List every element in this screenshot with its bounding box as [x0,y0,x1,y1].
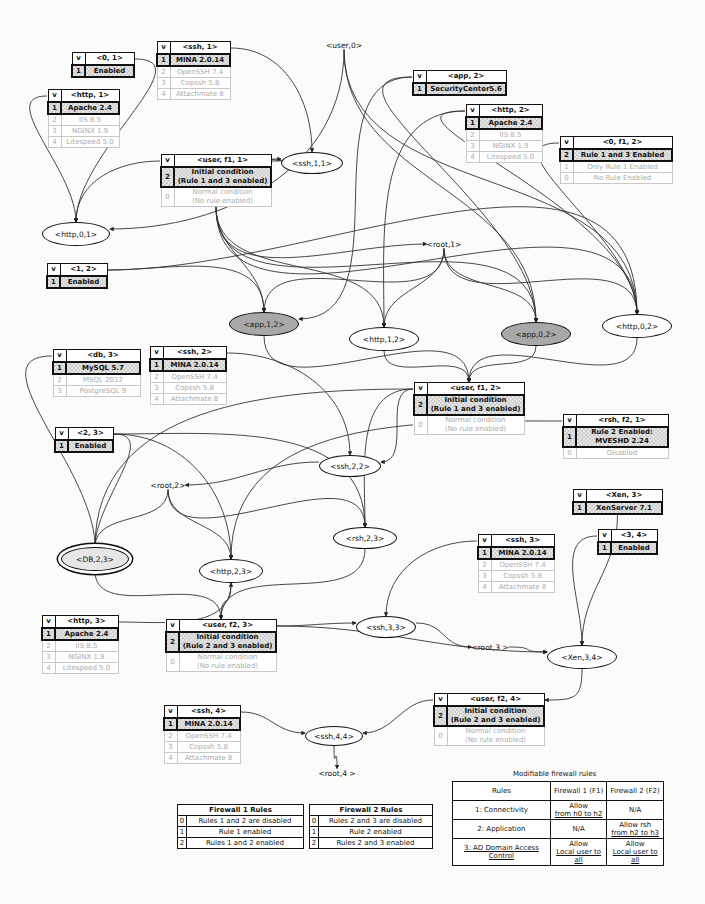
node-xen34[interactable]: <Xen,3,4> [547,645,617,669]
edge-tssh1-to-ssh11 [231,48,312,152]
selected-option-row[interactable]: 2Initial condition (Rule 2 and 3 enabled… [166,632,276,652]
edge-db23-to-tuserf23 [95,571,221,619]
option-row[interactable]: 3Copssh 5.8 [478,571,554,582]
option-row[interactable]: 2OpenSSH 7.4 [164,730,240,742]
selected-option-row[interactable]: 2Initial condition (Rule 1 and 3 enabled… [414,395,524,415]
option-text: NGINX 1.9 [479,141,542,152]
firewall1-rule-row: 2Rules 1 and 2 enabled [178,838,304,849]
node-ssh44[interactable]: <ssh,4,4> [305,726,363,746]
node-http23[interactable]: <http,2,3> [199,559,263,583]
selected-option-row[interactable]: 1Apache 2.4 [42,628,118,640]
selected-option-row[interactable]: 1Apache 2.4 [466,117,542,129]
option-row[interactable]: 4Litespeed 5.0 [48,137,119,148]
edge-ssh44-to-root4 [334,746,337,769]
selected-option-row[interactable]: 1Enabled [72,65,134,77]
node-http02[interactable]: <http,0,2> [602,314,672,338]
option-row[interactable]: 3Copssh 5.8 [150,383,226,394]
selected-option-row[interactable]: 1SecurityCenter5.6 [413,83,506,95]
option-row[interactable]: 3PostgreSQL 9 [53,386,140,397]
option-index: 4 [150,394,163,405]
node-rsh23[interactable]: <rsh,2,3> [333,527,397,549]
table-v-cell: v [150,347,163,360]
selected-option-row[interactable]: 2Rule 1 and 3 Enabled [560,149,672,161]
table-header: <3, 4> [611,530,657,543]
node-http12[interactable]: <http,1,2> [349,327,419,351]
node-ssh22[interactable]: <ssh,2,2> [319,455,381,477]
option-row[interactable]: 2OpenSSH 7.4 [478,559,554,571]
selected-option-row[interactable]: 1MINA 2.0.14 [157,54,230,66]
option-index: 2 [42,640,55,652]
selected-option-row[interactable]: 1MySQL 5.7 [53,362,140,374]
condition-table-t34: v<3, 4>1Enabled [597,529,658,555]
option-row[interactable]: 2MSQL 2012 [53,374,140,386]
option-row[interactable]: 2IIS 8.5 [48,114,119,126]
option-row[interactable]: 0Normal condition (No rule enabled) [166,652,276,672]
table-header: <db, 3> [66,350,140,363]
node-db23[interactable]: <DB,2,3> [61,547,129,571]
table-header: <rsh, f2, 1> [576,415,668,428]
option-row[interactable]: 3NGINX 1.9 [42,652,118,663]
edge-t12-to-app12 [108,266,264,312]
edge-ssh22-to-root2 [185,462,319,485]
option-text: Enabled [85,65,134,77]
selected-option-row[interactable]: 1XenServer 7.1 [573,502,662,514]
firewall1-rule-row: 0Rules 1 and 2 are disabled [178,816,304,827]
option-row[interactable]: 2OpenSSH 7.4 [157,66,230,78]
edge-root1-to-app12 [264,249,444,313]
node-app12[interactable]: <app,1,2> [229,312,299,336]
option-index: 2 [48,114,61,126]
option-row[interactable]: 0Disabled [563,447,668,459]
selected-option-row[interactable]: 2Initial condition (Rule 2 and 3 enabled… [434,706,544,726]
option-row[interactable]: 0Normal condition (No rule enabled) [161,187,271,207]
selected-option-row[interactable]: 1MINA 2.0.14 [164,718,240,730]
option-text: IIS 8.5 [61,114,119,126]
table-v-cell: v [72,53,85,66]
option-row[interactable]: 3Copssh 5.8 [157,78,230,89]
selected-option-row[interactable]: 1Enabled [598,542,657,554]
condition-table-txen3: v<Xen, 3>1XenServer 7.1 [572,489,663,515]
edge-http23-to-tuserf23 [221,583,231,619]
option-row[interactable]: 4Attachmate 8 [478,582,554,593]
option-row[interactable]: 3NGINX 1.9 [466,141,542,152]
selected-option-row[interactable]: 1Apache 2.4 [48,102,119,114]
table-v-cell: v [55,428,68,441]
option-row[interactable]: 0No Rule Enabled [560,173,672,184]
node-app02[interactable]: <app,0,2> [501,322,571,346]
option-row[interactable]: 2IIS 8.5 [466,129,542,141]
table-v-cell: v [573,490,586,503]
option-row[interactable]: 4Attachmate 8 [157,89,230,100]
option-row[interactable]: 2IIS 8.5 [42,640,118,652]
node-ssh11[interactable]: <ssh,1,1> [281,152,343,174]
option-row[interactable]: 4Attachmate 8 [150,394,226,405]
selected-option-row[interactable]: 1MINA 2.0.14 [150,359,226,371]
option-index: 4 [157,89,170,100]
selected-option-row[interactable]: 2Initial condition (Rule 1 and 3 enabled… [161,167,271,187]
option-row[interactable]: 0Normal condition (No rule enabled) [414,415,524,435]
option-text: OpenSSH 7.4 [491,559,554,571]
node-ssh33[interactable]: <ssh,3,3> [356,616,416,638]
node-http01[interactable]: <http,0,1> [42,222,110,246]
selected-option-row[interactable]: 1Rule 2 Enabled: MVESHD 2.24 [563,427,668,447]
condition-table-thttp1: v<http, 1>1Apache 2.42IIS 8.53NGINX 1.94… [47,89,120,148]
edge-root2-to-rsh23 [168,490,365,528]
option-index: 0 [434,726,447,746]
table-header: <http, 2> [479,105,542,118]
option-row[interactable]: 4Attachmate 8 [164,753,240,764]
table-v-cell: v [598,530,611,543]
option-row[interactable]: 3NGINX 1.9 [48,126,119,137]
condition-table-t12: v<1, 2>1Enabled [46,263,108,289]
option-row[interactable]: 4Litespeed 5.0 [42,663,118,674]
option-text: NGINX 1.9 [55,652,118,663]
edge-tapp2-to-app12 [299,77,412,319]
option-row[interactable]: 3Copssh 5.8 [164,742,240,753]
option-text: OpenSSH 7.4 [177,730,240,742]
option-text: Litespeed 5.0 [61,137,119,148]
option-row[interactable]: 4Litespeed 5.0 [466,152,542,163]
selected-option-row[interactable]: 1Enabled [55,440,113,452]
option-row[interactable]: 1Only Rule 1 Enabled [560,161,672,173]
selected-option-row[interactable]: 1MINA 2.0.14 [478,547,554,559]
option-row[interactable]: 2OpenSSH 7.4 [150,371,226,383]
selected-option-row[interactable]: 1Enabled [47,276,107,288]
option-text: Apache 2.4 [61,102,119,114]
option-row[interactable]: 0Normal condition (No rule enabled) [434,726,544,746]
